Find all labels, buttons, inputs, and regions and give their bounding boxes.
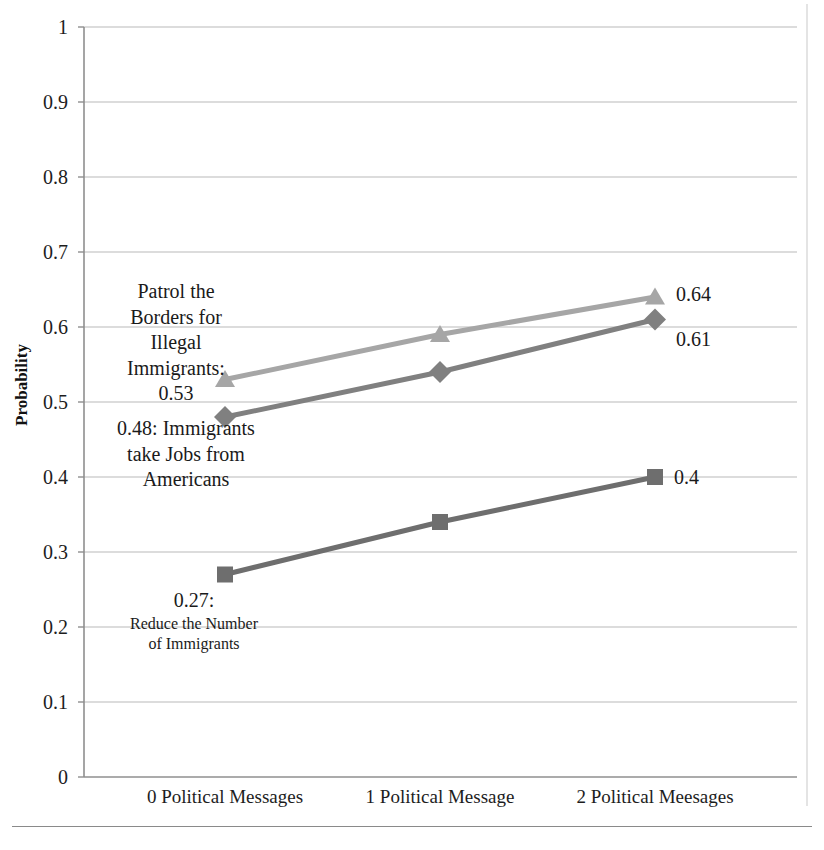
y-tick-label-0.1: 0.1 (0, 692, 68, 712)
marker-reduce-2 (647, 469, 663, 485)
y-axis-title: Probability (12, 325, 32, 445)
y-tick-label-1: 1 (0, 17, 68, 37)
y-tick-label-0: 0 (0, 767, 68, 787)
annotation-immigrants-take-jobs: 0.48: Immigrants take Jobs from American… (86, 416, 286, 493)
y-tick-label-0.2: 0.2 (0, 617, 68, 637)
marker-reduce-1 (432, 514, 448, 530)
data-label-jobs-endpoint: 0.61 (676, 328, 711, 351)
y-tick-label-0.8: 0.8 (0, 167, 68, 187)
bottom-divider (12, 826, 812, 827)
y-tick-label-0.5: 0.5 (0, 392, 68, 412)
annotation-jobs-line-1: take Jobs from (86, 442, 286, 468)
annotation-patrol-the-borders: Patrol the Borders for Illegal Immigrant… (96, 279, 256, 407)
annotation-jobs-line-0: 0.48: Immigrants (86, 416, 286, 442)
y-tick-label-0.9: 0.9 (0, 92, 68, 112)
annotation-reduce-line-2: of Immigrants (105, 634, 283, 654)
y-tick-marks (78, 27, 84, 777)
y-tick-label-0.6: 0.6 (0, 317, 68, 337)
marker-jobs-1 (429, 361, 451, 383)
x-tick-label-0-political-messages: 0 Political Messages (125, 786, 325, 808)
data-label-reduce-endpoint: 0.4 (674, 466, 699, 489)
y-axis-tick-labels: 1 0.9 0.8 0.7 0.6 0.5 0.4 0.3 0.2 0.1 0 (0, 0, 68, 850)
y-tick-label-0.4: 0.4 (0, 467, 68, 487)
annotation-patrol-line-0: Patrol the (96, 279, 256, 305)
annotation-patrol-line-4: 0.53 (96, 381, 256, 407)
annotation-patrol-line-3: Immigrants: (96, 356, 256, 382)
x-tick-label-2-political-messages: 2 Political Meesages (555, 786, 755, 808)
annotation-patrol-line-2: Illegal (96, 330, 256, 356)
data-label-patrol-endpoint: 0.64 (676, 283, 711, 306)
annotation-patrol-line-1: Borders for (96, 305, 256, 331)
annotation-reduce-line-0: 0.27: (105, 588, 283, 614)
annotation-reduce-line-1: Reduce the Number (105, 614, 283, 634)
annotation-reduce-the-number: 0.27: Reduce the Number of Immigrants (105, 588, 283, 655)
annotation-jobs-line-2: Americans (86, 467, 286, 493)
chart-figure: 1 0.9 0.8 0.7 0.6 0.5 0.4 0.3 0.2 0.1 0 … (0, 0, 824, 850)
x-tick-label-1-political-message: 1 Political Message (345, 786, 535, 808)
y-tick-label-0.3: 0.3 (0, 542, 68, 562)
marker-reduce-0 (217, 567, 233, 583)
y-tick-label-0.7: 0.7 (0, 242, 68, 262)
